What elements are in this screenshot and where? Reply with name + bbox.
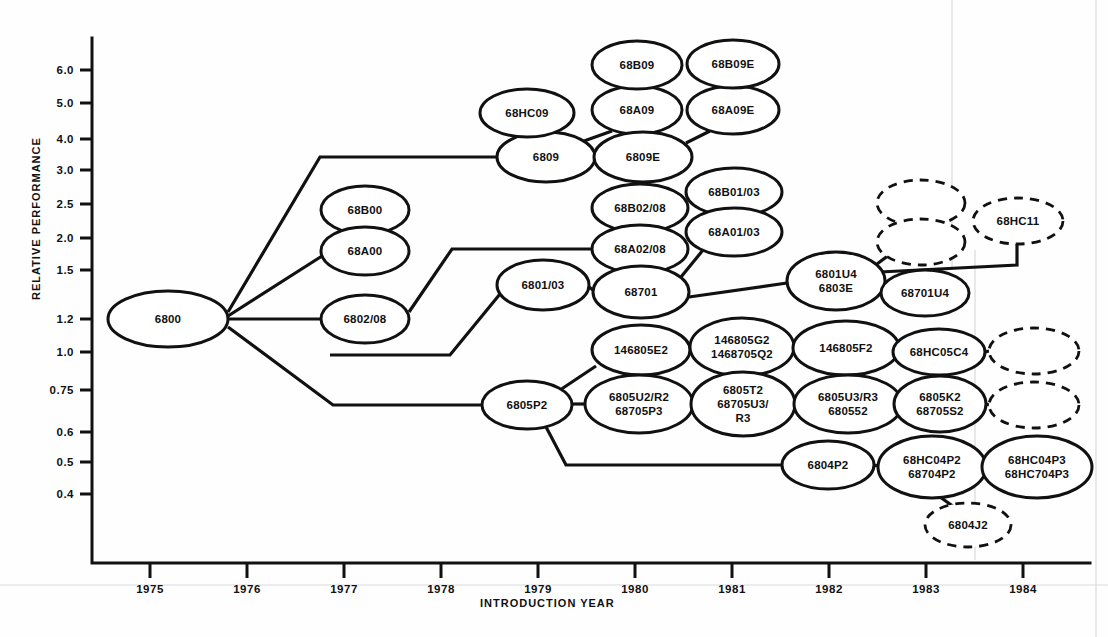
node-label: 6801/03: [522, 279, 565, 291]
node-ellipse: [877, 219, 965, 265]
x-tick-label: 1982: [815, 583, 843, 595]
node-label: 68HC04P2: [903, 454, 961, 466]
x-tick-label: 1976: [233, 583, 261, 595]
node-label: 1468705Q2: [711, 348, 773, 360]
node-label: 68705S2: [916, 405, 963, 417]
node-label: 6805U2/R2: [609, 391, 669, 403]
node-label: 68HC05C4: [910, 346, 969, 358]
node-68HC09[interactable]: 68HC09: [480, 89, 574, 137]
node-6801U4[interactable]: 6801U46803E: [787, 252, 885, 310]
node-68HC11[interactable]: 68HC11: [973, 198, 1063, 244]
node-label: 68B09: [620, 59, 655, 71]
node-146805F2[interactable]: 146805F2: [793, 321, 899, 375]
node-ellipse: [878, 436, 986, 498]
node-6800[interactable]: 6800: [108, 291, 228, 347]
y-tick-label: 0.5: [57, 456, 75, 468]
node-label: 68701: [625, 286, 658, 298]
x-tick-label: 1981: [718, 583, 746, 595]
node-blank-32[interactable]: [989, 382, 1079, 428]
node-ellipse: [989, 328, 1079, 374]
chart-canvas: 6.05.04.03.02.52.01.51.21.00.750.60.50.4…: [0, 0, 1108, 637]
y-tick-label: 2.5: [57, 198, 75, 210]
node-label: 68A09E: [712, 104, 755, 116]
node-label: 146805F2: [819, 342, 872, 354]
node-label: 6802/08: [344, 313, 387, 325]
node-label: 68705P3: [615, 405, 662, 417]
node-label: 680552: [828, 405, 868, 417]
node-label: 68B09E: [712, 58, 755, 70]
node-6809E[interactable]: 6809E: [594, 132, 692, 182]
node-label: 68HC09: [505, 107, 548, 119]
node-label: 6805T2: [723, 384, 763, 396]
node-label: 68A02/08: [614, 243, 666, 255]
y-tick-label: 2.0: [57, 232, 75, 244]
node-ellipse: [787, 252, 885, 310]
node-label: 6800: [155, 313, 181, 325]
y-tick-label: 1.0: [57, 346, 75, 358]
x-axis-title: INTRODUCTION YEAR: [480, 597, 615, 609]
node-6805P2[interactable]: 6805P2: [482, 381, 572, 429]
x-tick-label: 1979: [524, 583, 552, 595]
node-6804P2[interactable]: 6804P2: [782, 441, 874, 489]
node-68B09E[interactable]: 68B09E: [687, 40, 779, 88]
node-label: 6801U4: [815, 268, 857, 280]
node-label: R3: [735, 412, 750, 424]
edge-68701-to-6801U4: [689, 283, 787, 297]
edge-6805P2-to-146805E2: [560, 366, 596, 390]
y-tick-label: 0.4: [57, 488, 75, 500]
y-tick-label: 3.0: [57, 164, 75, 176]
node-146805E2[interactable]: 146805E2: [592, 325, 690, 375]
y-tick-label: 1.5: [57, 264, 75, 276]
y-tick-label: 4.0: [57, 133, 75, 145]
x-tick-label: 1984: [1009, 583, 1037, 595]
node-ellipse: [989, 382, 1079, 428]
node-68A09E[interactable]: 68A09E: [687, 86, 779, 134]
node-label: 68HC11: [997, 215, 1040, 227]
y-tick-label: 1.2: [57, 313, 75, 325]
x-tick-label: 1975: [136, 583, 164, 595]
node-680103[interactable]: 6801/03: [497, 260, 589, 310]
node-label: 68B00: [348, 204, 383, 216]
node-68HC05C4[interactable]: 68HC05C4: [893, 329, 985, 375]
node-label: 6809: [533, 151, 559, 163]
node-6805T2[interactable]: 6805T268705U3/R3: [691, 372, 795, 436]
node-ellipse: [894, 376, 986, 432]
x-tick-label: 1983: [912, 583, 940, 595]
node-68HC04P3[interactable]: 68HC04P368HC704P3: [982, 436, 1092, 498]
node-label: 68A09: [620, 104, 655, 116]
nodes-group: 680068B0068A006802/08680968HC0968A0968B0…: [108, 40, 1092, 547]
node-68A0103[interactable]: 68A01/03: [686, 208, 782, 256]
node-ellipse: [794, 375, 902, 433]
node-6805U3R3[interactable]: 6805U3/R3680552: [794, 375, 902, 433]
node-680208[interactable]: 6802/08: [321, 295, 409, 343]
y-tick-label: 0.75: [50, 384, 74, 396]
node-68B09[interactable]: 68B09: [592, 41, 682, 89]
node-label: 68HC04P3: [1008, 454, 1066, 466]
node-blank-26[interactable]: [989, 328, 1079, 374]
node-label: 6805P2: [507, 399, 548, 411]
node-blank-20[interactable]: [877, 219, 965, 265]
node-68701U4[interactable]: 68701U4: [881, 270, 969, 316]
x-tick-label: 1980: [621, 583, 649, 595]
node-ellipse: [585, 375, 693, 433]
node-6805U2R2[interactable]: 6805U2/R268705P3: [585, 375, 693, 433]
node-68A09[interactable]: 68A09: [592, 86, 682, 134]
node-label: 6809E: [626, 151, 660, 163]
node-146805G2[interactable]: 146805G21468705Q2: [690, 318, 794, 376]
node-6809[interactable]: 6809: [497, 132, 595, 182]
node-label: 6804P2: [808, 459, 849, 471]
node-68701[interactable]: 68701: [593, 266, 689, 318]
y-tick-label: 5.0: [57, 97, 75, 109]
x-tick-group: 1975197619771978197919801981198219831984: [136, 563, 1037, 595]
y-tick-label: 0.6: [57, 426, 75, 438]
node-68A00[interactable]: 68A00: [321, 227, 409, 275]
motorola-mcu-family-tree-figure: 6.05.04.03.02.52.01.51.21.00.750.60.50.4…: [0, 0, 1108, 637]
node-label: 146805E2: [614, 344, 668, 356]
node-68HC04P2[interactable]: 68HC04P268704P2: [878, 436, 986, 498]
node-ellipse: [982, 436, 1092, 498]
node-6805K2[interactable]: 6805K268705S2: [894, 376, 986, 432]
node-label: 68B01/03: [708, 186, 759, 198]
node-6804J2[interactable]: 6804J2: [925, 503, 1011, 547]
node-label: 68A01/03: [708, 226, 759, 238]
node-label: 6804J2: [948, 519, 988, 531]
